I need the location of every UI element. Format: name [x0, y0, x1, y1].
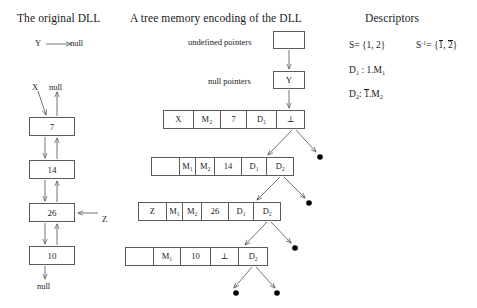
leaf-dot [317, 154, 323, 160]
tree-cell: D₁ [247, 111, 278, 128]
dll-node-14: 14 [29, 160, 75, 179]
leaf-dot [306, 200, 312, 206]
arrow-row3-right-branch [271, 222, 291, 243]
descriptor-d2-value: .M [369, 89, 380, 99]
dll-head-var: X [32, 82, 38, 92]
dll-tail-null: null [37, 281, 50, 291]
null-pointers-box: Y [273, 71, 305, 89]
arrow-row4-right-branch [256, 267, 275, 288]
tree-row-3: Z M₁ M₂ 26 D₁ D₂ [138, 202, 281, 221]
leaf-dot [292, 245, 298, 251]
tree-cell [152, 158, 180, 175]
null-pointers-box-value: Y [286, 75, 293, 85]
left-column-title: The original DLL [17, 12, 100, 24]
arrow-x-into-head [38, 91, 46, 115]
diagram-canvas: The original DLL A tree memory encoding … [0, 0, 477, 308]
right-column-title: Descriptors [365, 12, 419, 24]
dll-node-7: 7 [29, 117, 75, 136]
tree-cell: ⊥ [277, 111, 304, 128]
descriptor-d1-value: : 1.M [361, 65, 382, 75]
tree-cell: D₂ [239, 248, 267, 265]
descriptor-d2-m-subscript: 2 [380, 93, 383, 100]
descriptor-sinv-close: } [453, 40, 458, 50]
dll-node-10: 10 [29, 246, 75, 265]
descriptor-d1-subscript: 1 [356, 69, 359, 76]
dll-node-26: 26 [29, 203, 75, 222]
descriptor-d1: D1 : 1.M1 [349, 65, 385, 76]
tree-cell: Z [139, 203, 167, 220]
descriptor-d2-label: D [349, 89, 356, 99]
dll-node-value: 7 [50, 122, 55, 132]
tree-cell: 7 [221, 111, 247, 128]
tree-cell: 26 [202, 203, 229, 220]
arrow-row2-right-branch [284, 177, 305, 198]
dll-node-value: 14 [48, 165, 57, 175]
descriptor-d2: D2: 1.M2 [349, 89, 383, 100]
tree-row-2: M₁ M₂ 14 D₁ D₂ [151, 157, 294, 176]
tree-cell: M₁ [154, 248, 182, 265]
undefined-pointers-box [273, 31, 305, 49]
tree-cell: D₁ [242, 158, 268, 175]
tree-cell: M₂ [194, 111, 222, 128]
tree-cell: 10 [181, 248, 211, 265]
tree-row-1: X M₂ 7 D₁ ⊥ [163, 110, 305, 129]
tree-row-4: M₁ 10 ⊥ D₂ [125, 247, 268, 266]
leaf-dot [233, 290, 239, 296]
tree-cell: ⊥ [211, 248, 240, 265]
descriptor-d2-colon: : [359, 89, 362, 99]
dll-node-value: 26 [48, 208, 57, 218]
tree-cell: X [164, 111, 194, 128]
tree-cell: M₁ [180, 158, 197, 175]
arrow-row4-left-branch [234, 267, 252, 288]
arrow-row2-left-branch [257, 177, 280, 200]
dll-head-null: null [49, 82, 62, 92]
arrow-row1-left-branch [268, 130, 292, 155]
descriptor-s-value: = {1, 2} [354, 40, 385, 50]
tree-cell: M₁ [167, 203, 184, 220]
tree-cell: D₂ [267, 158, 293, 175]
null-pointers-label: null pointers [208, 76, 251, 86]
descriptor-s: S= {1, 2} [349, 40, 385, 50]
tree-cell: 14 [215, 158, 242, 175]
middle-column-title: A tree memory encoding of the DLL [130, 12, 302, 24]
tree-cell: D₁ [229, 203, 255, 220]
dll-z-var: Z [102, 214, 107, 224]
descriptor-s-inverse: S-1= {1, 2} [416, 40, 457, 51]
descriptor-d1-label: D [349, 65, 356, 75]
arrow-row1-right-branch [296, 130, 316, 152]
undefined-pointers-label: undefined pointers [188, 37, 252, 47]
arrow-row3-left-branch [245, 222, 267, 245]
tree-cell: M₂ [196, 158, 215, 175]
descriptor-sinv-value: = { [426, 40, 438, 50]
descriptor-d1-m-subscript: 1 [382, 69, 385, 76]
tree-cell: D₂ [254, 203, 280, 220]
dll-node-value: 10 [48, 251, 57, 261]
tree-cell: M₂ [183, 203, 202, 220]
y-pointer-target: null [70, 38, 83, 48]
leaf-dot [274, 290, 280, 296]
tree-cell [126, 248, 154, 265]
y-pointer-var: Y [35, 38, 41, 48]
